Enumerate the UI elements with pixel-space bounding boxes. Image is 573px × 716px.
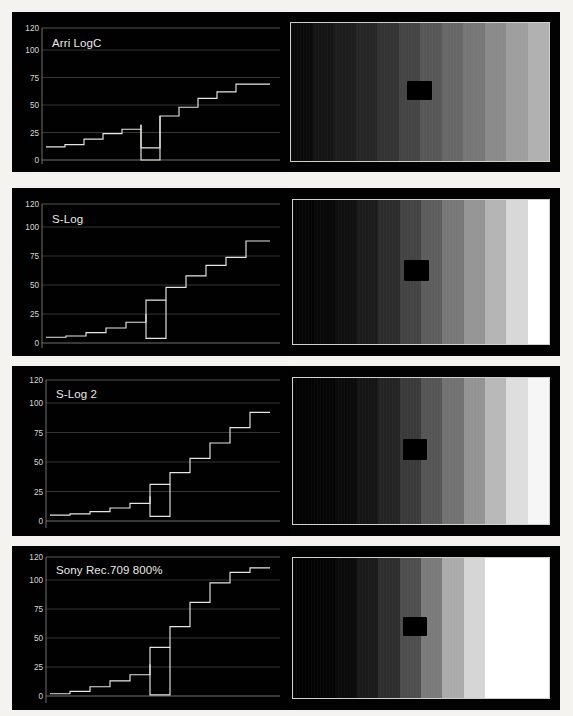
gray-step <box>313 23 335 161</box>
waveform-black-patch-dip <box>146 300 166 338</box>
gray-step <box>485 200 506 344</box>
ytick-25: 25 <box>34 488 44 497</box>
panel-title-s-log: S-Log <box>52 213 83 225</box>
ytick-25: 25 <box>30 129 40 138</box>
gray-step <box>442 378 463 524</box>
ytick-0: 0 <box>38 692 43 701</box>
ytick-0: 0 <box>34 339 39 348</box>
gray-step <box>506 558 527 698</box>
gray-step <box>314 378 335 524</box>
waveform-trace <box>50 412 270 515</box>
panel-arri-logc: 120 100 75 50 25 0 Arri LogC <box>12 12 560 172</box>
waveform-svg: 120 100 75 50 25 0 <box>12 366 290 536</box>
gray-step <box>528 558 549 698</box>
gray-step <box>356 23 378 161</box>
gray-step <box>463 23 485 161</box>
ytick-75: 75 <box>30 74 40 83</box>
ytick-0: 0 <box>34 156 39 165</box>
gray-step <box>528 378 549 524</box>
gray-step <box>378 200 399 344</box>
gray-step <box>442 23 464 161</box>
grayscale-chart-arri-logc <box>290 22 550 162</box>
gray-step <box>293 378 314 524</box>
gray-step <box>336 558 357 698</box>
gray-step <box>506 200 527 344</box>
gray-step <box>485 23 507 161</box>
ytick-75: 75 <box>34 605 44 614</box>
black-patch <box>407 81 432 100</box>
ytick-25: 25 <box>30 310 40 319</box>
gray-step <box>336 378 357 524</box>
gray-step <box>314 200 335 344</box>
gray-step <box>528 23 550 161</box>
ytick-120: 120 <box>25 24 39 33</box>
grayscale-border <box>292 199 550 345</box>
waveform-arri-logc: 120 100 75 50 25 0 Arri LogC <box>12 12 290 172</box>
log-curve-comparison-figure: 120 100 75 50 25 0 Arri LogC <box>0 0 573 716</box>
gray-step <box>334 23 356 161</box>
panel-title-s-log-2: S-Log 2 <box>56 388 97 400</box>
ytick-100: 100 <box>25 46 39 55</box>
ytick-100: 100 <box>25 223 39 232</box>
ytick-100: 100 <box>29 399 43 408</box>
waveform-black-patch-dip <box>141 116 160 148</box>
ytick-75: 75 <box>30 252 40 261</box>
waveform-s-log-2: 120 100 75 50 25 0 S-Log 2 <box>12 366 290 536</box>
black-patch <box>403 617 427 637</box>
grayscale-border <box>292 557 550 699</box>
waveform-trace <box>46 241 270 337</box>
black-patch <box>404 260 428 280</box>
gray-step <box>464 200 485 344</box>
waveform-black-patch-dip <box>150 647 170 695</box>
black-patch <box>403 439 427 459</box>
ytick-50: 50 <box>34 458 44 467</box>
gray-step <box>293 200 314 344</box>
ytick-50: 50 <box>30 101 40 110</box>
gray-step <box>464 558 485 698</box>
gray-step <box>464 378 485 524</box>
waveform-trace <box>50 568 270 694</box>
panel-title-sony-rec709-800: Sony Rec.709 800% <box>56 564 163 576</box>
gray-step <box>442 558 463 698</box>
panel-title-arri-logc: Arri LogC <box>52 37 101 49</box>
gray-step <box>442 200 463 344</box>
gray-step <box>378 558 399 698</box>
ytick-25: 25 <box>34 663 44 672</box>
gray-step <box>506 23 528 161</box>
ytick-0: 0 <box>38 517 43 526</box>
grayscale-chart-sony-rec709-800 <box>292 557 550 699</box>
gray-step <box>357 378 378 524</box>
grayscale-chart-s-log-2 <box>292 377 550 525</box>
gray-step <box>357 558 378 698</box>
grayscale-border <box>292 377 550 525</box>
gray-step <box>336 200 357 344</box>
ytick-100: 100 <box>29 576 43 585</box>
waveform-svg: 120 100 75 50 25 0 <box>12 12 290 172</box>
panel-sony-rec709-800: 120 100 75 50 25 0 Sony Rec.709 800% <box>12 546 560 710</box>
gray-step <box>485 558 506 698</box>
ytick-50: 50 <box>34 634 44 643</box>
gray-step <box>528 200 549 344</box>
waveform-black-patch-dip <box>150 484 170 516</box>
grayscale-border <box>290 22 550 162</box>
gray-step <box>377 23 399 161</box>
ytick-120: 120 <box>29 376 43 385</box>
ytick-50: 50 <box>30 281 40 290</box>
gray-step <box>506 378 527 524</box>
gray-step <box>291 23 313 161</box>
waveform-trace <box>46 84 270 160</box>
gray-step <box>314 558 335 698</box>
gray-step <box>378 378 399 524</box>
gray-step <box>357 200 378 344</box>
waveform-s-log: 120 100 75 50 25 0 S-Log <box>12 188 290 356</box>
ytick-120: 120 <box>25 200 39 209</box>
ytick-120: 120 <box>29 553 43 562</box>
gray-step <box>293 558 314 698</box>
ytick-75: 75 <box>34 429 44 438</box>
grayscale-chart-s-log <box>292 199 550 345</box>
waveform-sony-rec709-800: 120 100 75 50 25 0 Sony Rec.709 800% <box>12 546 290 710</box>
panel-s-log-2: 120 100 75 50 25 0 S-Log 2 <box>12 366 560 536</box>
gray-step <box>485 378 506 524</box>
panel-s-log: 120 100 75 50 25 0 S-Log <box>12 188 560 356</box>
